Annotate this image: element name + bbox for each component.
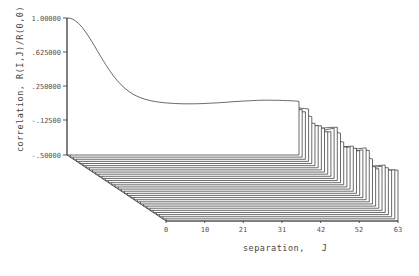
y-axis-title: correlation, R(I,J)/R(0,0) (15, 6, 25, 152)
y-tick-label: 1.00000 (31, 15, 61, 23)
y-tick-label: -.50000 (31, 152, 61, 160)
y-tick-label: .250000 (31, 83, 61, 91)
x-tick-label: 52 (355, 226, 363, 234)
x-tick-label: 63 (394, 226, 402, 234)
x-ticks: 0 10 21 31 42 52 63 (164, 221, 402, 234)
x-tick-label: 21 (239, 226, 247, 234)
x-tick-label: 0 (164, 226, 168, 234)
y-tick-label: -.12500 (31, 117, 61, 125)
x-axis-title: separation, J (243, 243, 327, 253)
slice-curve (67, 18, 299, 155)
correlation-slices (67, 18, 398, 221)
waterfall-chart: 1.00000 .625000 .250000 -.12500 -.50000 … (0, 0, 419, 276)
x-tick-label: 31 (278, 226, 286, 234)
y-ticks: 1.00000 .625000 .250000 -.12500 -.50000 (31, 15, 67, 160)
x-tick-label: 10 (201, 226, 209, 234)
y-tick-label: .625000 (31, 49, 61, 57)
x-tick-label: 42 (317, 226, 325, 234)
